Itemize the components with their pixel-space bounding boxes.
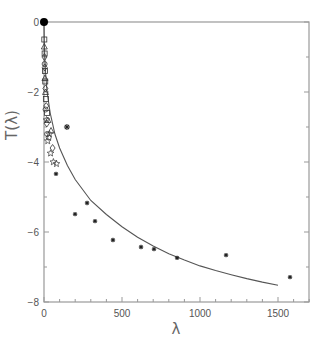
y-tick-label: 0	[33, 17, 39, 28]
y-tick-label: −2	[28, 87, 40, 98]
x-axis-label: λ	[172, 320, 181, 338]
axis-ticks: 0500100015000−2−4−6−8	[28, 17, 310, 319]
chart: 0500100015000−2−4−6−8 λ T(λ)	[0, 0, 322, 347]
fit-curve	[44, 22, 278, 285]
x-tick-label: 1000	[189, 308, 212, 319]
y-tick-label: −6	[28, 227, 40, 238]
plot-frame	[44, 22, 309, 302]
data-markers	[40, 18, 292, 279]
x-tick-label: 1500	[267, 308, 290, 319]
y-tick-label: −8	[28, 297, 40, 308]
y-axis-label: T(λ)	[3, 110, 21, 141]
y-tick-label: −4	[28, 157, 40, 168]
x-tick-label: 500	[114, 308, 131, 319]
x-tick-label: 0	[41, 308, 47, 319]
